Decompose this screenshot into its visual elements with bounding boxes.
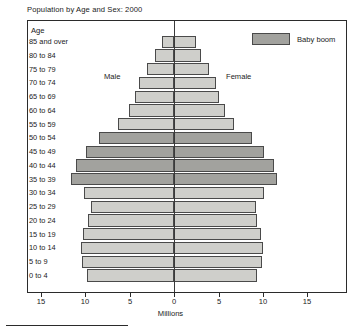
x-axis-tick-label-2: 5 <box>118 297 142 306</box>
y-axis-label-70-to-74: 70 to 74 <box>29 78 56 87</box>
y-axis-label-15-to-19: 15 to 19 <box>29 230 56 239</box>
y-axis-label-5-to-9: 5 to 9 <box>29 257 48 266</box>
female-annotation: Female <box>226 72 251 81</box>
y-axis-label-50-to-54: 50 to 54 <box>29 133 56 142</box>
x-axis-tick-label-5: 10 <box>251 297 275 306</box>
y-axis-label-65-to-69: 65 to 69 <box>29 92 56 101</box>
x-axis-tick-label-0: 15 <box>29 297 53 306</box>
y-axis-labels: 85 and over80 to 8475 to 7970 to 7465 to… <box>0 0 355 332</box>
male-annotation: Male <box>104 72 120 81</box>
y-axis-label-35-to-39: 35 to 39 <box>29 175 56 184</box>
y-axis-label-25-to-29: 25 to 29 <box>29 202 56 211</box>
legend-swatch-baby-boom <box>252 33 290 45</box>
footer-divider <box>6 325 128 326</box>
x-axis-title-text: Millions <box>158 309 183 318</box>
x-axis-tick-labels: 15105051015 <box>0 297 355 309</box>
y-axis-label-55-to-59: 55 to 59 <box>29 120 56 129</box>
legend: Baby boom <box>252 33 335 45</box>
y-axis-label-75-to-79: 75 to 79 <box>29 65 56 74</box>
x-axis-tick-label-6: 15 <box>295 297 319 306</box>
y-axis-label-60-to-64: 60 to 64 <box>29 106 56 115</box>
y-axis-label-45-to-49: 45 to 49 <box>29 147 56 156</box>
x-axis-title: Millions <box>0 309 355 318</box>
y-axis-label-80-to-84: 80 to 84 <box>29 51 56 60</box>
y-axis-label-20-to-24: 20 to 24 <box>29 216 56 225</box>
y-axis-label-10-to-14: 10 to 14 <box>29 243 56 252</box>
y-axis-label-0-to-4: 0 to 4 <box>29 271 48 280</box>
x-axis-tick-label-4: 5 <box>207 297 231 306</box>
y-axis-label-40-to-44: 40 to 44 <box>29 161 56 170</box>
x-axis-tick-label-1: 10 <box>73 297 97 306</box>
y-axis-label-30-to-34: 30 to 34 <box>29 188 56 197</box>
legend-label-baby-boom: Baby boom <box>297 35 335 44</box>
x-axis-tick-label-3: 0 <box>162 297 186 306</box>
y-axis-label-85-and-over: 85 and over <box>29 37 68 46</box>
